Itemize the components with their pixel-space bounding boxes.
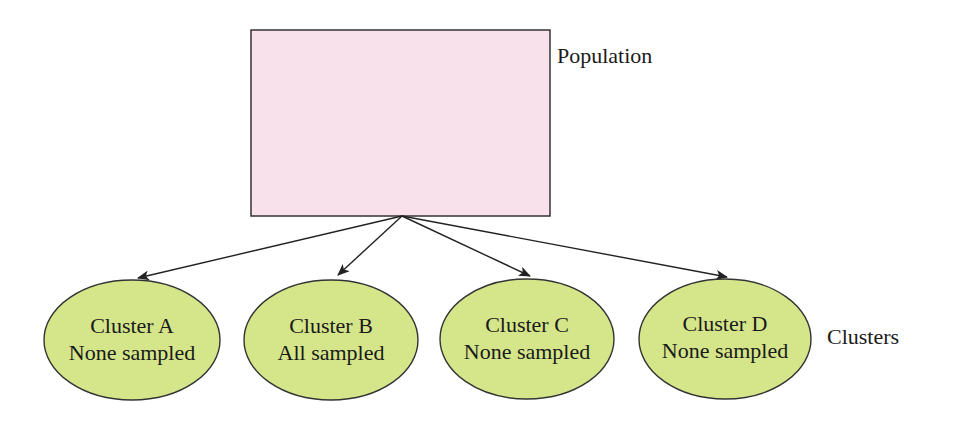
arrow-to-cluster-b [338,216,402,275]
clusters-label: Clusters [827,326,899,348]
arrows [138,216,727,278]
cluster-a-name: Cluster A [69,312,195,339]
cluster-d-label: Cluster D None sampled [662,310,788,364]
arrow-to-cluster-c [402,216,530,276]
cluster-c-status: None sampled [464,338,590,365]
arrow-to-cluster-d [402,216,727,277]
cluster-d-status: None sampled [662,337,788,364]
cluster-b-status: All sampled [278,339,385,366]
cluster-c-label: Cluster C None sampled [464,311,590,365]
cluster-d-name: Cluster D [662,310,788,337]
cluster-c-name: Cluster C [464,311,590,338]
population-box [251,30,550,216]
cluster-b-label: Cluster B All sampled [278,312,385,366]
population-label: Population [557,45,652,67]
cluster-a-label: Cluster A None sampled [69,312,195,366]
cluster-b-name: Cluster B [278,312,385,339]
arrow-to-cluster-a [138,216,402,278]
cluster-a-status: None sampled [69,339,195,366]
